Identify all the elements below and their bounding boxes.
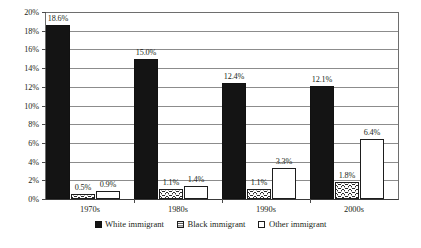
x-axis-category-label: 1980s: [168, 205, 188, 214]
bar-black-imm: 1.1%: [247, 189, 271, 199]
bar-black-imm: 0.5%: [71, 194, 95, 199]
bar-group: 12.1%1.8%6.4%2000s: [310, 12, 398, 199]
legend-label-white-immigrant: White immigrant: [105, 219, 164, 229]
x-axis-category-label: 2000s: [344, 205, 364, 214]
chart-legend: White immigrant Black immigrant Other im…: [0, 219, 421, 229]
bar-white-imm: 12.4%: [222, 83, 246, 199]
y-axis-label: 2%: [28, 176, 39, 185]
y-axis-label: 20%: [24, 8, 39, 17]
bar-value-label: 18.6%: [48, 14, 69, 23]
bar-white-imm: 12.1%: [310, 86, 334, 199]
bar-value-label: 1.1%: [163, 178, 180, 187]
bar-white-imm: 15.0%: [134, 59, 158, 199]
bar-value-label: 3.3%: [276, 157, 293, 166]
legend-swatch-icon-other-immigrant: [258, 221, 265, 228]
legend-item-black-immigrant: Black immigrant: [177, 219, 246, 229]
bar-value-label: 12.4%: [224, 72, 245, 81]
page-caption: [0, 238, 421, 248]
legend-item-white-immigrant: White immigrant: [95, 219, 164, 229]
bar-value-label: 15.0%: [136, 48, 157, 57]
y-axis-label: 0%: [28, 195, 39, 204]
y-axis-label: 16%: [24, 45, 39, 54]
legend-swatch-icon-white-immigrant: [95, 221, 102, 228]
x-axis-tick: [134, 199, 135, 203]
bar-value-label: 0.9%: [100, 180, 117, 189]
x-axis-category-label: 1970s: [80, 205, 100, 214]
y-axis-label: 8%: [28, 120, 39, 129]
bar-chart: 20%18%16%14%12%10%8%6%4%2%0%18.6%0.5%0.9…: [0, 0, 421, 248]
bar-black-imm: 1.1%: [159, 189, 183, 199]
bar-white-imm: 18.6%: [46, 25, 70, 199]
bar-value-label: 6.4%: [364, 128, 381, 137]
bar-black-imm: 1.8%: [335, 182, 359, 199]
plot-area: 20%18%16%14%12%10%8%6%4%2%0%18.6%0.5%0.9…: [45, 12, 399, 200]
bar-value-label: 12.1%: [312, 75, 333, 84]
legend-item-other-immigrant: Other immigrant: [258, 219, 326, 229]
bar-value-label: 1.4%: [188, 175, 205, 184]
y-axis-label: 14%: [24, 64, 39, 73]
legend-label-black-immigrant: Black immigrant: [187, 219, 245, 229]
x-axis-tick: [310, 199, 311, 203]
bar-other-imm: 6.4%: [360, 139, 384, 199]
y-axis-label: 4%: [28, 157, 39, 166]
bar-value-label: 1.1%: [251, 178, 268, 187]
y-axis-tick: [42, 199, 46, 200]
bar-value-label: 1.8%: [339, 171, 356, 180]
legend-swatch-icon-black-immigrant: [177, 221, 184, 228]
bar-group: 12.4%1.1%3.3%1990s: [222, 12, 310, 199]
bar-group: 18.6%0.5%0.9%1970s: [46, 12, 134, 199]
bar-other-imm: 0.9%: [96, 191, 120, 199]
bar-other-imm: 3.3%: [272, 168, 296, 199]
legend-label-other-immigrant: Other immigrant: [269, 219, 327, 229]
y-axis-label: 18%: [24, 26, 39, 35]
x-axis-tick: [222, 199, 223, 203]
bar-group: 15.0%1.1%1.4%1980s: [134, 12, 222, 199]
bar-other-imm: 1.4%: [184, 186, 208, 199]
x-axis-category-label: 1990s: [256, 205, 276, 214]
y-axis-label: 10%: [24, 101, 39, 110]
y-axis-label: 12%: [24, 82, 39, 91]
y-axis-label: 6%: [28, 138, 39, 147]
bar-value-label: 0.5%: [75, 183, 92, 192]
